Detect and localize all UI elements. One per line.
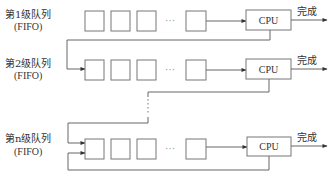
multilevel-feedback-queue-diagram: 第1级队列 (FIFO) ··· CPU 完成 第2级队列 (FIFO) ···… bbox=[0, 0, 330, 185]
level-2-queue-slot-3 bbox=[137, 60, 156, 80]
level-n-done-label: 完成 bbox=[297, 131, 317, 143]
level-n-cpu-label: CPU bbox=[259, 141, 279, 152]
level-1-cpu-label: CPU bbox=[259, 15, 279, 26]
level-2-queue-slot-1 bbox=[85, 60, 104, 80]
level-2-feedback-upper bbox=[148, 79, 269, 97]
level-2-queue-slot-2 bbox=[111, 60, 130, 80]
level-1-label: 第1级队列 bbox=[5, 8, 51, 20]
level-2-queue-slot-last bbox=[186, 60, 206, 80]
level-n-queue-slot-last bbox=[186, 139, 206, 159]
level-n-fifo-label: (FIFO) bbox=[14, 146, 42, 158]
level-2-label: 第2级队列 bbox=[5, 57, 51, 69]
level-2: 第2级队列 (FIFO) ··· CPU 完成 bbox=[5, 54, 327, 143]
level-2-to-level-n-feedback bbox=[68, 117, 148, 143]
level-2-queue-ellipsis: ··· bbox=[165, 64, 175, 75]
level-1-queue-ellipsis: ··· bbox=[165, 15, 175, 26]
level-2-done-label: 完成 bbox=[297, 54, 317, 66]
level-2-fifo-label: (FIFO) bbox=[14, 70, 42, 82]
level-2-cpu-label: CPU bbox=[259, 64, 279, 75]
level-n: 第n级队列 (FIFO) ··· CPU 完成 bbox=[5, 131, 327, 170]
level-1-done-label: 完成 bbox=[297, 5, 317, 17]
level-n-queue-slot-2 bbox=[111, 139, 130, 159]
level-1-queue-slot-2 bbox=[111, 11, 130, 31]
level-1-queue-slot-1 bbox=[85, 11, 104, 31]
level-1-queue-slot-3 bbox=[137, 11, 156, 31]
level-n-label: 第n级队列 bbox=[5, 132, 51, 144]
level-1-queue-slot-last bbox=[186, 11, 206, 31]
level-n-queue-slot-1 bbox=[85, 139, 104, 159]
level-n-queue-ellipsis: ··· bbox=[165, 143, 175, 154]
level-n-queue-slot-3 bbox=[137, 139, 156, 159]
level-1-fifo-label: (FIFO) bbox=[14, 21, 42, 33]
